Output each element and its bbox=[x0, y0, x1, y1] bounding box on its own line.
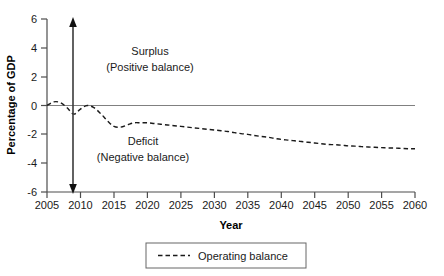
x-tick-label: 2055 bbox=[369, 199, 393, 211]
deficit-label-line1: Deficit bbox=[128, 135, 159, 147]
y-tick-label: -2 bbox=[27, 128, 37, 140]
x-tick-label: 2050 bbox=[336, 199, 360, 211]
chart-background bbox=[0, 0, 444, 276]
chart-legend: Operating balance bbox=[146, 243, 306, 268]
x-tick-label: 2025 bbox=[169, 199, 193, 211]
x-tick-label: 2060 bbox=[403, 199, 427, 211]
y-tick-label: 6 bbox=[31, 13, 37, 25]
operating-balance-chart: 6 4 2 0 -2 -4 -6 2005 2010 201 bbox=[0, 0, 444, 276]
x-tick-label: 2020 bbox=[135, 199, 159, 211]
x-tick-label: 2035 bbox=[236, 199, 260, 211]
y-tick-label: 2 bbox=[31, 71, 37, 83]
deficit-label-line2: (Negative balance) bbox=[97, 151, 189, 163]
x-tick-label: 2030 bbox=[202, 199, 226, 211]
surplus-label-line2: (Positive balance) bbox=[106, 61, 193, 73]
y-axis-title: Percentage of GDP bbox=[5, 55, 17, 155]
x-tick-label: 2005 bbox=[35, 199, 59, 211]
x-tick-label: 2045 bbox=[302, 199, 326, 211]
x-tick-label: 2040 bbox=[269, 199, 293, 211]
x-tick-label: 2010 bbox=[68, 199, 92, 211]
legend-label-operating-balance: Operating balance bbox=[198, 250, 288, 262]
x-tick-label: 2015 bbox=[102, 199, 126, 211]
y-tick-label: -6 bbox=[27, 186, 37, 198]
y-tick-label: 0 bbox=[31, 100, 37, 112]
y-tick-label: -4 bbox=[27, 157, 37, 169]
y-tick-label: 4 bbox=[31, 42, 37, 54]
x-axis-title: Year bbox=[219, 219, 243, 231]
figure-container: 6 4 2 0 -2 -4 -6 2005 2010 201 bbox=[0, 0, 444, 276]
surplus-label-line1: Surplus bbox=[131, 45, 169, 57]
